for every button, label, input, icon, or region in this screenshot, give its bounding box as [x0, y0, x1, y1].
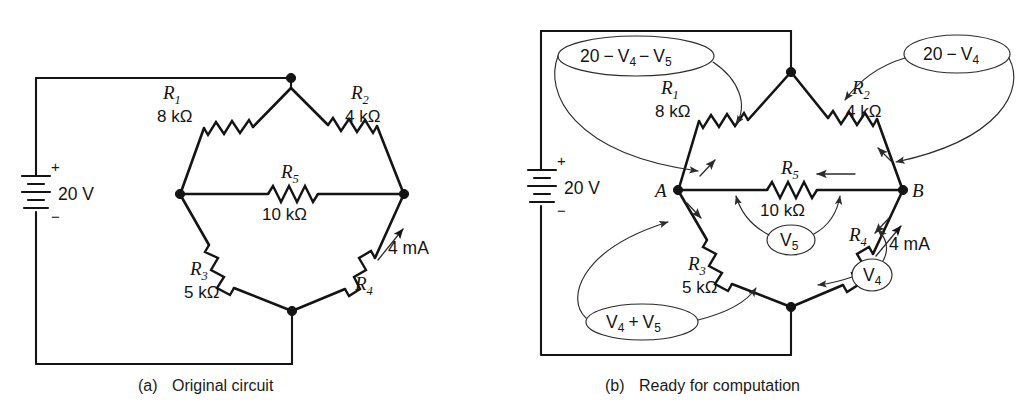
junction-right-a	[399, 189, 408, 198]
panel-b: + − 20 V R1 8 kΩ R2 4 kΩ R3 5 kΩ	[528, 31, 1014, 394]
annotation-20-minus-v4: 20−V4	[845, 35, 1014, 162]
branch-r5-b	[678, 182, 903, 198]
junction-top-b	[786, 67, 795, 76]
junction-bottom-a	[287, 306, 296, 315]
annotation-ellipse	[904, 35, 1010, 73]
annotation-expression: V4+V5	[606, 312, 661, 335]
r4-symbol-a: R4	[354, 273, 373, 298]
r3-symbol-b: R3	[687, 253, 706, 278]
annotation-leader-right	[896, 58, 1014, 162]
junction-right-b	[898, 185, 907, 194]
branch-r5-a	[180, 186, 404, 202]
r3-symbol-a: R3	[189, 258, 208, 283]
r5-value-a: 10 kΩ	[262, 205, 307, 224]
annotation-leader-left	[578, 222, 668, 318]
branch-r2-a	[291, 88, 403, 192]
battery-voltage-label-b: 20 V	[564, 178, 600, 198]
branch-r1-a	[181, 88, 291, 192]
r5-symbol-a: R5	[280, 161, 299, 186]
junction-top-a	[286, 73, 295, 82]
junction-left-a	[175, 189, 184, 198]
r2-symbol-a: R2	[350, 82, 369, 107]
r5-value-b: 10 kΩ	[760, 201, 805, 220]
r5-symbol-b: R5	[780, 157, 799, 182]
node-label-a: A	[653, 180, 667, 201]
current-label-b: 4 mA	[889, 234, 930, 254]
branch-r4-a	[292, 196, 403, 311]
polarity-arrow-r1-up	[700, 160, 715, 176]
r1-value-a: 8 kΩ	[157, 107, 192, 126]
battery-plus-sign-b: +	[557, 152, 566, 169]
battery-voltage-label-a: 20 V	[58, 184, 94, 204]
battery-plus-sign-a: +	[51, 158, 60, 175]
battery-minus-sign-b: −	[557, 202, 566, 219]
junction-left-b	[673, 185, 682, 194]
annotation-v4-plus-v5: V4+V5	[578, 222, 756, 340]
battery-minus-sign-a: −	[51, 208, 60, 225]
r2-value-b: 4 kΩ	[846, 102, 881, 121]
r1-symbol-a: R1	[162, 82, 181, 107]
annotation-expression: 20−V4−V5	[580, 46, 672, 69]
r1-value-b: 8 kΩ	[655, 102, 690, 121]
branch-r2-b	[791, 72, 902, 188]
battery-symbol-b	[528, 170, 556, 202]
junction-bottom-b	[786, 302, 795, 311]
battery-symbol-a	[22, 176, 50, 208]
r2-value-a: 4 kΩ	[345, 107, 380, 126]
panel-a: + − 20 V R1 8 kΩ R2 4 kΩ R3 5 kΩ	[22, 73, 429, 394]
caption-tag-a: (a)	[138, 377, 158, 394]
r3-value-a: 5 kΩ	[184, 283, 219, 302]
r4-symbol-b: R4	[848, 224, 867, 249]
figure-canvas: + − 20 V R1 8 kΩ R2 4 kΩ R3 5 kΩ	[0, 0, 1028, 410]
caption-text-b: Ready for computation	[639, 377, 800, 394]
caption-tag-b: (b)	[605, 377, 625, 394]
current-label-a: 4 mA	[388, 238, 429, 258]
r3-value-b: 5 kΩ	[682, 278, 717, 297]
caption-text-a: Original circuit	[172, 377, 274, 394]
annotation-leader-left	[818, 277, 852, 285]
annotation-expression: 20−V4	[923, 44, 979, 67]
r1-symbol-b: R1	[660, 77, 679, 102]
annotation-leader-right	[814, 196, 840, 234]
annotation-20-minus-v4-minus-v5: 20−V4−V5	[555, 36, 742, 171]
node-label-b: B	[912, 180, 924, 201]
